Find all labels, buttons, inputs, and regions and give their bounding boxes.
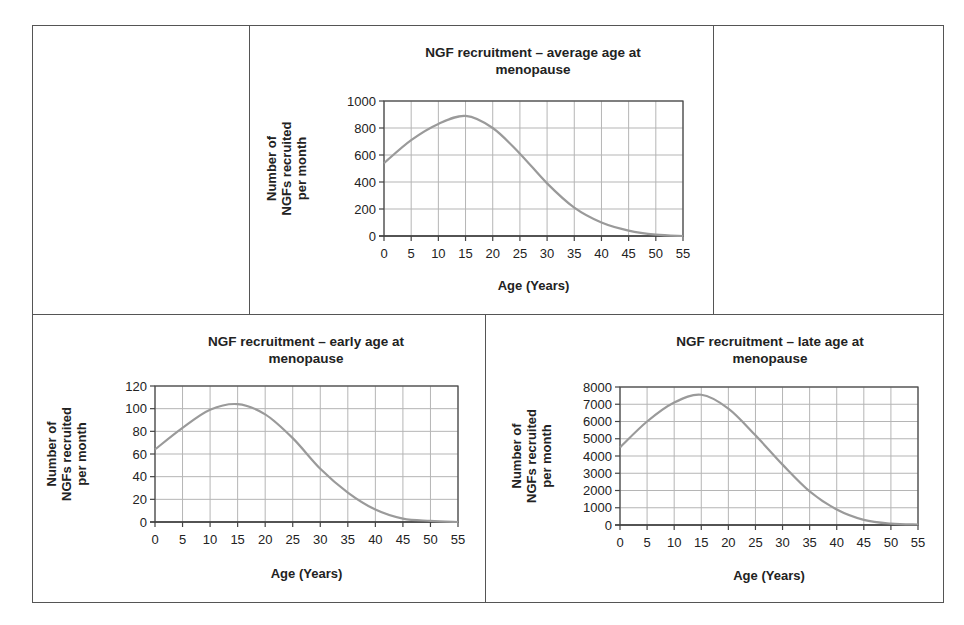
y-tick-label: 6000 xyxy=(583,414,612,429)
chart-title: menopause xyxy=(732,351,808,366)
x-tick-label: 15 xyxy=(694,535,708,550)
chart-title: NGF recruitment – late age at xyxy=(676,334,864,349)
y-tick-label: 8000 xyxy=(583,380,612,395)
x-tick-label: 30 xyxy=(775,535,789,550)
x-tick-label: 35 xyxy=(802,535,816,550)
chart-late: NGF recruitment – late age atmenopause01… xyxy=(0,0,964,625)
x-tick-label: 10 xyxy=(667,535,681,550)
x-tick-label: 55 xyxy=(911,535,925,550)
y-axis-label: Number ofNGFs recruitedper month xyxy=(509,409,554,503)
x-tick-label: 50 xyxy=(884,535,898,550)
x-tick-label: 20 xyxy=(721,535,735,550)
x-axis-label: Age (Years) xyxy=(733,568,805,583)
y-tick-label: 3000 xyxy=(583,466,612,481)
y-tick-label: 1000 xyxy=(583,500,612,515)
series-line xyxy=(620,395,918,525)
y-tick-label: 5000 xyxy=(583,431,612,446)
y-tick-label: 0 xyxy=(605,518,612,533)
y-tick-label: 4000 xyxy=(583,449,612,464)
x-tick-label: 45 xyxy=(857,535,871,550)
x-tick-label: 40 xyxy=(829,535,843,550)
y-tick-label: 2000 xyxy=(583,483,612,498)
y-tick-label: 7000 xyxy=(583,397,612,412)
x-tick-label: 0 xyxy=(616,535,623,550)
x-tick-label: 25 xyxy=(748,535,762,550)
x-tick-label: 5 xyxy=(643,535,650,550)
